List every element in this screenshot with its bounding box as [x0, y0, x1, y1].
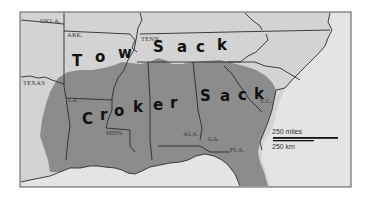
dialect-map: OKLA. ARK. TENN. TEXAS LA. MISS. ALA. GA…: [0, 0, 371, 198]
label-la: LA.: [68, 96, 79, 103]
label-miss: MISS.: [106, 129, 124, 136]
svg-text:C: C: [82, 110, 93, 128]
svg-text:a: a: [177, 38, 187, 56]
label-ala: ALA.: [183, 130, 199, 137]
svg-text:k: k: [254, 85, 265, 103]
svg-text:S: S: [153, 38, 164, 56]
svg-text:r: r: [100, 106, 108, 124]
svg-text:a: a: [220, 87, 230, 105]
label-okla: OKLA.: [40, 17, 61, 24]
label-ark: ARK.: [67, 31, 83, 38]
svg-text:k: k: [217, 36, 228, 54]
svg-text:r: r: [170, 94, 178, 112]
label-texas: TEXAS: [23, 79, 45, 86]
svg-text:o: o: [114, 102, 124, 120]
svg-text:o: o: [95, 48, 105, 66]
scale-miles-label: 250 miles: [272, 128, 302, 135]
svg-text:w: w: [118, 44, 132, 62]
svg-text:c: c: [238, 86, 247, 104]
scale-km-label: 250 km: [272, 143, 295, 150]
label-ga: GA.: [208, 135, 220, 142]
svg-text:T: T: [72, 52, 83, 70]
svg-text:c: c: [196, 38, 205, 56]
label-fla: FLA.: [230, 146, 245, 153]
svg-text:S: S: [200, 87, 211, 105]
svg-text:k: k: [133, 98, 144, 116]
svg-text:e: e: [153, 96, 163, 114]
